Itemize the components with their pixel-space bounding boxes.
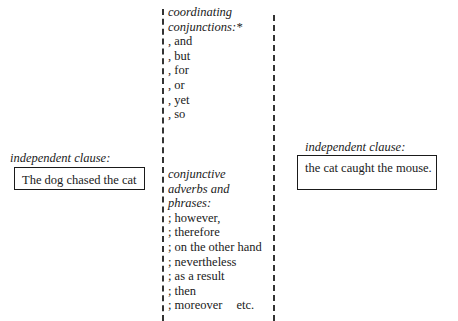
adverbs-heading-3: phrases: — [168, 196, 272, 211]
list-item: , for — [168, 63, 272, 78]
list-item: ; nevertheless — [168, 255, 272, 270]
coordinating-heading-1: coordinating — [168, 5, 272, 20]
right-clause-text: the cat caught the mouse. — [305, 161, 432, 175]
left-dashed-divider — [162, 9, 164, 321]
right-clause-box: the cat caught the mouse. — [297, 155, 437, 190]
list-item-last: ; moreoveretc. — [168, 298, 272, 313]
conjunctive-adverbs-group: conjunctive adverbs and phrases: ; howev… — [168, 167, 272, 313]
list-item: ; therefore — [168, 225, 272, 240]
list-item: , and — [168, 34, 272, 49]
left-clause-text: The dog chased the cat — [22, 173, 137, 187]
list-item: , so — [168, 107, 272, 122]
adverbs-heading-1: conjunctive — [168, 167, 272, 182]
list-item: , but — [168, 49, 272, 64]
coordinating-conjunctions-group: coordinating conjunctions:* , and , but … — [168, 5, 272, 122]
left-clause-box: The dog chased the cat — [14, 167, 145, 190]
list-item: ; however, — [168, 211, 272, 226]
adverbs-heading-2: adverbs and — [168, 182, 272, 197]
list-item: ; on the other hand — [168, 240, 272, 255]
coordinating-heading-2: conjunctions:* — [168, 20, 272, 35]
right-dashed-divider — [273, 15, 275, 321]
etc-text: etc. — [237, 298, 255, 312]
left-clause-label: independent clause: — [10, 151, 110, 165]
list-item: , yet — [168, 93, 272, 108]
list-item-text: ; moreover — [168, 298, 223, 312]
right-clause-label: independent clause: — [305, 140, 405, 154]
list-item: ; then — [168, 284, 272, 299]
list-item: ; as a result — [168, 269, 272, 284]
list-item: , or — [168, 78, 272, 93]
